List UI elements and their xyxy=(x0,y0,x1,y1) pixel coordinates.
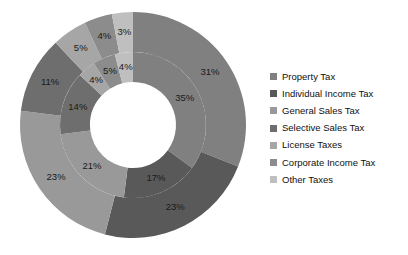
outer-ring-series xyxy=(20,12,246,238)
legend-swatch-icon xyxy=(270,90,277,97)
legend-item-license-taxes[interactable]: License Taxes xyxy=(270,137,406,154)
inner-ring-series xyxy=(60,52,206,198)
slice-value-label: 11% xyxy=(41,76,60,87)
slice-value-label: 3% xyxy=(117,26,131,37)
slice-value-label: 23% xyxy=(166,201,186,212)
slice-value-label: 35% xyxy=(175,92,195,103)
legend-swatch-icon xyxy=(270,125,277,132)
legend-item-label: General Sales Tax xyxy=(282,106,359,116)
legend-item-label: Property Tax xyxy=(282,72,335,82)
slice-value-label: 23% xyxy=(47,171,67,182)
slice-value-label: 4% xyxy=(89,74,103,85)
legend-item-general-sales-tax[interactable]: General Sales Tax xyxy=(270,102,406,119)
legend-item-label: Individual Income Tax xyxy=(282,89,373,99)
slice-value-label: 4% xyxy=(119,61,133,72)
slice-value-label: 5% xyxy=(103,65,117,76)
legend-item-label: License Taxes xyxy=(282,140,342,150)
slice-value-label: 17% xyxy=(147,172,167,183)
slice-value-label: 21% xyxy=(82,160,102,171)
legend-item-label: Corporate Income Tax xyxy=(282,158,375,168)
legend-item-label: Other Taxes xyxy=(282,175,333,185)
legend-swatch-icon xyxy=(270,107,277,114)
doughnut-chart: 31%23%23%11%5%4%3% 35%17%21%14%4%5%4% xyxy=(0,0,268,255)
slice-value-label: 14% xyxy=(68,101,88,112)
legend-item-selective-sales-tax[interactable]: Selective Sales Tax xyxy=(270,120,406,137)
legend-item-property-tax[interactable]: Property Tax xyxy=(270,68,406,85)
legend-item-corporate-income-tax[interactable]: Corporate Income Tax xyxy=(270,154,406,171)
legend-swatch-icon xyxy=(270,176,277,183)
slice-value-label: 5% xyxy=(74,42,88,53)
legend-swatch-icon xyxy=(270,142,277,149)
chart-legend: Property Tax Individual Income Tax Gener… xyxy=(270,68,406,188)
legend-swatch-icon xyxy=(270,159,277,166)
legend-item-other-taxes[interactable]: Other Taxes xyxy=(270,171,406,188)
legend-swatch-icon xyxy=(270,73,277,80)
slice-value-label: 31% xyxy=(200,66,220,77)
legend-item-label: Selective Sales Tax xyxy=(282,123,364,133)
slice-value-label: 4% xyxy=(97,30,111,41)
legend-item-individual-income-tax[interactable]: Individual Income Tax xyxy=(270,85,406,102)
doughnut-chart-svg: 31%23%23%11%5%4%3% 35%17%21%14%4%5%4% xyxy=(0,0,268,255)
